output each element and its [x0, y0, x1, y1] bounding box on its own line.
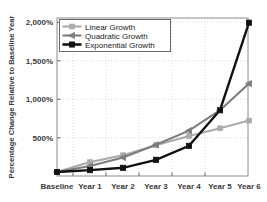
marker-square: [120, 165, 125, 170]
x-tick-label-year-6: Year 6: [237, 182, 261, 191]
y-tick-label: 1,500%: [26, 57, 53, 66]
x-axis-tick-labels: Baseline Year 1 Year 2 Year 3 Year 4 Yea…: [41, 182, 262, 191]
line-chart: 2,000% 1,500% 1,000% 500% Baseline Year …: [0, 0, 267, 202]
x-tick-label-year-5: Year 5: [208, 182, 232, 191]
x-tick-label-baseline: Baseline: [41, 182, 74, 191]
marker-square: [87, 168, 92, 173]
y-tick-label: 2,000%: [26, 18, 53, 27]
marker-square: [218, 126, 223, 131]
marker-square: [187, 134, 192, 139]
chart-legend[interactable]: Linear Growth Quadratic Growth Exponenti…: [60, 20, 171, 52]
marker-square: [153, 157, 158, 162]
x-tick-label-year-4: Year 4: [177, 182, 201, 191]
y-axis-tick-labels: 2,000% 1,500% 1,000% 500%: [26, 18, 53, 143]
x-tick-label-year-3: Year 3: [144, 182, 168, 191]
marker-square: [186, 143, 191, 148]
legend-label-exponential-growth: Exponential Growth: [85, 41, 155, 50]
legend-label-quadratic-growth: Quadratic Growth: [85, 32, 148, 41]
x-tick-label-year-2: Year 2: [111, 182, 135, 191]
legend-marker-square: [69, 42, 74, 47]
x-tick-label-year-1: Year 1: [78, 182, 102, 191]
marker-square: [54, 169, 59, 174]
y-tick-label: 1,000%: [26, 95, 53, 104]
legend-marker-square: [70, 24, 75, 29]
chart-figure: 2,000% 1,500% 1,000% 500% Baseline Year …: [0, 0, 267, 202]
y-tick-label: 500%: [33, 134, 53, 143]
marker-square: [247, 118, 252, 123]
marker-square: [217, 108, 222, 113]
marker-square: [246, 20, 251, 25]
legend-label-linear-growth: Linear Growth: [85, 23, 135, 32]
y-axis-title: Percentage Change Relative to Baseline Y…: [7, 16, 16, 179]
